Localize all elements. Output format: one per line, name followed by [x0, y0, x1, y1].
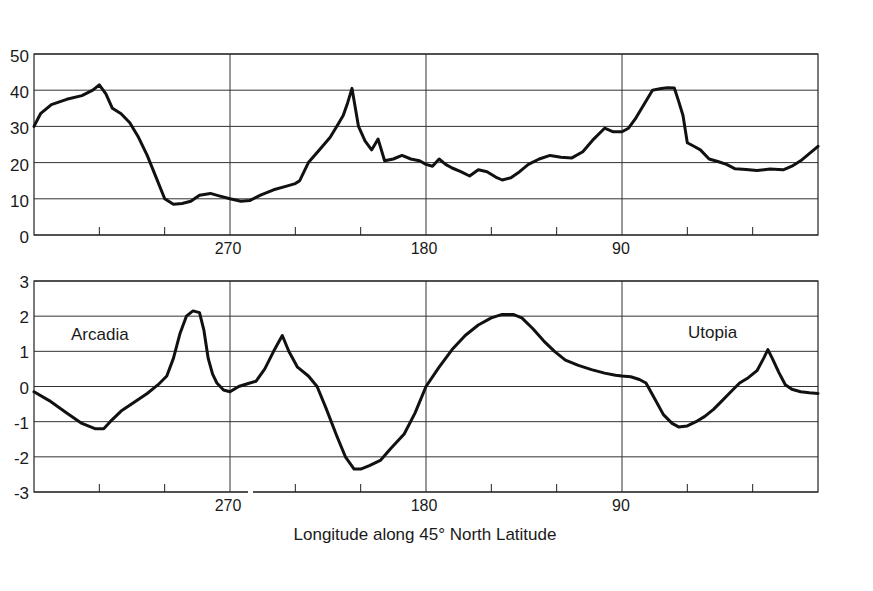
top-xtick-90: 90	[612, 240, 630, 257]
bottom-xtick-90: 90	[612, 497, 630, 514]
bottom-xtick-270: 270	[215, 497, 242, 514]
bottom-ytick-m1: -1	[14, 414, 29, 433]
x-axis-title: Longitude along 45° North Latitude	[294, 525, 557, 544]
top-panel	[34, 54, 818, 235]
figure: 50 40 30 20 10 0 270 180 90 3 2 1 0 -1 -…	[0, 0, 873, 591]
bottom-ytick-m3: -3	[14, 484, 29, 503]
top-ytick-20: 20	[10, 156, 29, 175]
annotation-utopia: Utopia	[688, 323, 738, 342]
top-ytick-40: 40	[10, 83, 29, 102]
top-ytick-50: 50	[10, 47, 29, 66]
top-ytick-0: 0	[20, 228, 29, 247]
axis-gap	[248, 490, 253, 494]
bottom-ytick-2: 2	[20, 308, 29, 327]
bottom-ytick-0: 0	[20, 379, 29, 398]
bottom-panel	[34, 281, 818, 494]
top-xtick-180: 180	[411, 240, 438, 257]
bottom-ytick-3: 3	[20, 273, 29, 292]
bottom-ytick-1: 1	[20, 343, 29, 362]
top-ytick-10: 10	[10, 192, 29, 211]
bottom-ytick-m2: -2	[14, 449, 29, 468]
bottom-xtick-180: 180	[411, 497, 438, 514]
top-xtick-270: 270	[215, 240, 242, 257]
top-ytick-30: 30	[10, 119, 29, 138]
annotation-arcadia: Arcadia	[71, 325, 129, 344]
